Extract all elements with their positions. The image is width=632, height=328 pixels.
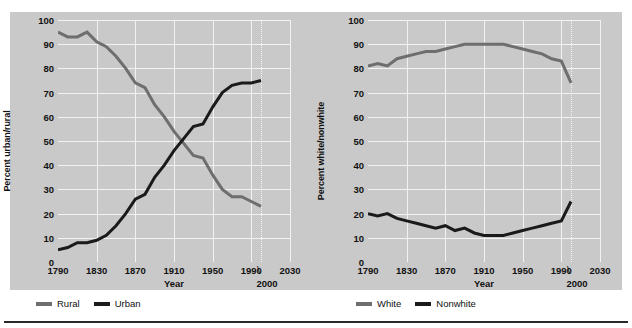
bottom-divider [4,321,628,323]
y-tick-label: 50 [43,136,54,147]
y-tick-label: 70 [43,87,54,98]
x-axis-title-right: Year [474,278,494,289]
plot-area-right: 1009080706050403020100 17901830187019101… [368,20,600,262]
x-tick-label: 1790 [357,265,378,276]
line-series-white [368,44,571,83]
y-tick-label: 60 [353,111,364,122]
gridline-vertical [600,20,601,262]
y-tick-label: 10 [43,232,54,243]
x-tick-label: 2030 [279,265,300,276]
y-tick-label: 90 [43,39,54,50]
legend-label: Rural [57,298,80,309]
y-tick-label: 30 [353,184,364,195]
legend-item: Urban [94,298,141,309]
x-tick-label: 1870 [125,265,146,276]
x-tick-label: 1950 [202,265,223,276]
x-tick-label: 1870 [435,265,456,276]
x-annotation-label: 2000 [256,278,277,289]
x-tick-label: 1790 [47,265,68,276]
legend-white-nonwhite: WhiteNonwhite [356,298,476,309]
figure-root: Percent urban/rural 10090807060504030201… [0,0,632,328]
legend-label: Urban [115,298,141,309]
x-annotation-mark: \ [257,264,260,276]
line-series-rural [58,32,261,206]
y-tick-label: 100 [38,15,54,26]
y-tick-label: 70 [353,87,364,98]
x-tick-label: 1910 [473,265,494,276]
x-tick-label: 1910 [163,265,184,276]
plot-area-left: 1009080706050403020100 17901830187019101… [58,20,290,262]
line-series-nonwhite [368,202,571,236]
chart-white-nonwhite: Percent white/nonwhite 10090807060504030… [316,12,622,290]
series-svg [58,20,290,262]
series-lines-left [58,20,290,262]
legend-item: White [356,298,401,309]
x-tick-label: 2030 [589,265,610,276]
legend-urban-rural: RuralUrban [36,298,141,309]
legend-label: Nonwhite [436,298,476,309]
y-axis-title-right: Percent white/nonwhite [316,102,326,200]
x-axis-title-left: Year [164,278,184,289]
x-annotation-mark: \ [567,264,570,276]
legend-item: Nonwhite [415,298,476,309]
series-lines-right [368,20,600,262]
y-tick-label: 20 [43,208,54,219]
legend-item: Rural [36,298,80,309]
legend-label: White [377,298,401,309]
y-tick-label: 90 [353,39,364,50]
y-tick-label: 40 [43,160,54,171]
y-tick-label: 40 [353,160,364,171]
x-tick-label: 1830 [396,265,417,276]
x-tick-label: 1950 [512,265,533,276]
series-svg [368,20,600,262]
line-series-urban [58,81,261,250]
y-tick-label: 100 [348,15,364,26]
y-tick-label: 80 [353,63,364,74]
legend-swatch [415,302,431,306]
gridline-vertical [290,20,291,262]
y-axis-title-left: Percent urban/rural [2,110,12,191]
y-tick-label: 60 [43,111,54,122]
y-tick-label: 50 [353,136,364,147]
y-tick-label: 80 [43,63,54,74]
legend-swatch [356,302,372,306]
legend-swatch [94,302,110,306]
chart-urban-rural: Percent urban/rural 10090807060504030201… [10,12,316,290]
x-tick-label: 1830 [86,265,107,276]
legend-swatch [36,302,52,306]
x-annotation-label: 2000 [566,278,587,289]
y-tick-label: 10 [353,232,364,243]
y-tick-label: 30 [43,184,54,195]
y-tick-label: 20 [353,208,364,219]
